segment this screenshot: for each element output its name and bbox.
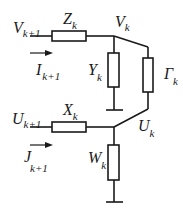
label-w: Wk [88, 149, 107, 171]
label-u-in: Uk+1 [12, 110, 41, 130]
resistor-x [52, 122, 86, 132]
label-x: Xk [62, 101, 79, 122]
wire-vk-diagonal [114, 36, 148, 47]
resistor-y [108, 53, 119, 87]
circuit-diagram: Vk+1 Zk Vk Ik+1 Yk Γk Uk+1 Xk Uk J k+1 W… [0, 0, 183, 214]
label-gamma: Γk [163, 65, 179, 87]
current-arrow-j-icon [30, 142, 53, 148]
label-v-k: Vk [115, 13, 131, 33]
label-y: Yk [88, 61, 103, 83]
label-z: Zk [63, 10, 78, 31]
label-j-in-sub: k+1 [30, 162, 48, 174]
resistor-z [52, 31, 86, 41]
label-i-in: Ik+1 [35, 61, 60, 82]
label-v-in: Vk+1 [13, 19, 41, 39]
label-u-k: Uk [138, 117, 156, 139]
resistor-gamma [143, 58, 153, 92]
current-arrow-i-icon [30, 50, 53, 56]
resistor-w [108, 145, 119, 180]
